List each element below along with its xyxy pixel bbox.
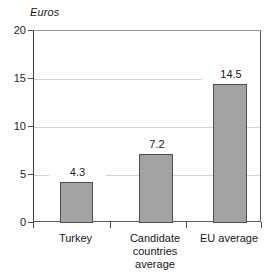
plot-area [33,30,261,222]
x-axis-category-label: EU average [184,232,274,245]
y-axis-tick-label: 0 [0,217,26,228]
bar-value-label: 7.2 [128,139,186,150]
y-axis-tick-label: 10 [0,121,26,132]
bar-chart: Euros 05101520 4.37.214.5 TurkeyCandidat… [0,0,274,279]
x-axis-category-label-line: Turkey [31,232,121,245]
y-axis-tick-label: 5 [0,169,26,180]
x-axis-category-label-line: countries [110,245,200,258]
x-axis-tick [186,222,187,228]
bar-value-label: 14.5 [202,69,260,80]
x-axis-tick [110,222,111,228]
bar-value-label: 4.3 [49,167,106,178]
bar [60,182,93,223]
y-axis-title: Euros [30,6,59,18]
x-axis-tick [33,222,34,228]
bar [213,84,247,223]
x-axis-category-label: Turkey [31,232,121,245]
y-axis-tick-labels: 05101520 [0,0,26,279]
x-axis-category-label-line: EU average [184,232,274,245]
bar [139,154,173,223]
x-axis-category-label-line: average [110,258,200,271]
y-axis-tick-label: 15 [0,73,26,84]
x-axis-tick [261,222,262,228]
y-axis-tick-label: 20 [0,25,26,36]
